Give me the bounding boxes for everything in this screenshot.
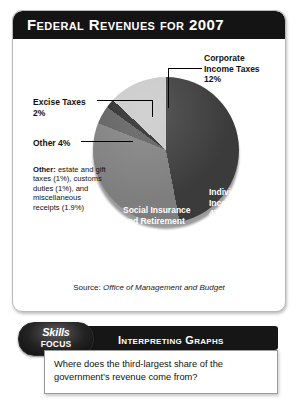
slice-label-excise: Excise Taxes 2% — [33, 97, 111, 118]
skills-focus-badge-bottom: FOCUS — [19, 339, 93, 349]
source-name: Office of Management and Budget — [103, 283, 225, 292]
other-footnote: Other: estate and gift taxes (1%), custo… — [33, 165, 107, 212]
slice-label-corporate: Corporate Income Taxes 12% — [204, 53, 282, 85]
leader-line-corporate-stem — [168, 68, 169, 108]
slice-label-other: Other 4% — [33, 138, 103, 149]
skills-focus-header-text: Interpreting Graphs — [118, 334, 224, 346]
leader-line-excise-stem — [152, 100, 153, 117]
slice-label-individual: Individual Income Taxes 47% — [209, 187, 279, 219]
chart-card: Federal Revenues for 2007 Corporate Inco… — [12, 10, 286, 312]
skills-focus-question: Where does the third-largest share of th… — [54, 358, 268, 384]
page-title: Federal Revenues for 2007 — [27, 16, 224, 33]
skills-focus-card: Interpreting Graphs Skills FOCUS Where d… — [18, 322, 278, 400]
skills-focus-body: Where does the third-largest share of th… — [44, 350, 278, 394]
chart-source: Source: Office of Management and Budget — [13, 283, 285, 292]
slice-label-social-insurance: Social Insurance and Retirement Receipts… — [123, 205, 199, 258]
other-footnote-lead: Other: — [33, 165, 56, 174]
page-root: Federal Revenues for 2007 Corporate Inco… — [0, 0, 296, 412]
leader-line-corporate — [168, 68, 202, 69]
chart-title-bar: Federal Revenues for 2007 — [13, 11, 285, 39]
source-prefix: Source: — [73, 283, 103, 292]
skills-focus-badge-top: Skills — [19, 326, 93, 338]
